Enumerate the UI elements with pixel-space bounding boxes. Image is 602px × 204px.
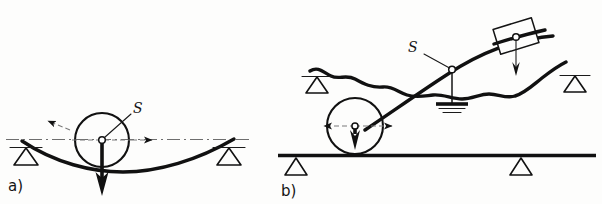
panel-a-support-right — [213, 148, 245, 166]
panel-b-wavy-support-right — [560, 76, 590, 93]
technical-diagram-canvas: S a) — [0, 0, 602, 204]
panel-b-wavy-support-left — [302, 77, 332, 94]
panel-b-pivot-node — [449, 66, 456, 73]
panel-b-centroid-leader — [424, 54, 450, 68]
panel-a-motion-arrow-left — [48, 121, 70, 130]
panel-b-inclined-link — [365, 36, 553, 130]
panel-b: S — [278, 18, 596, 200]
panel-b-block-node — [513, 34, 520, 41]
figure-root: S a) — [0, 0, 602, 204]
panel-b-rail-support-left — [285, 158, 307, 175]
panel-a-label: a) — [8, 177, 23, 195]
panel-b-wheel-centroid-node — [352, 123, 358, 129]
panel-b-centroid-label: S — [408, 39, 418, 55]
panel-b-block — [493, 18, 545, 76]
panel-b-rail-support-right — [510, 158, 532, 175]
panel-b-ground-symbol — [436, 104, 468, 113]
panel-a: S a) — [6, 100, 250, 196]
panel-a-centroid-label: S — [133, 100, 143, 116]
panel-b-label: b) — [281, 182, 296, 200]
